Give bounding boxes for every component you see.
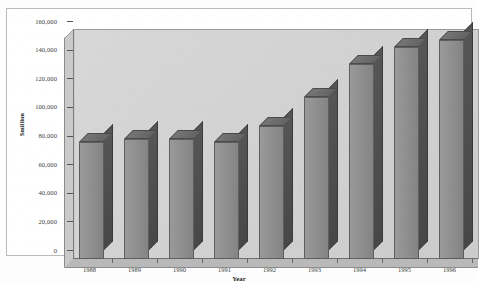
x-axis-tick-label: 1995 [385, 266, 425, 273]
x-axis-tick [292, 258, 293, 263]
x-axis-tick-label: 1996 [430, 266, 470, 273]
y-axis-tick-label: 160,000 [9, 18, 57, 25]
bar-front-face [124, 139, 149, 259]
bar-front-face [439, 40, 464, 259]
bar-front-face [169, 139, 194, 259]
y-axis-line [73, 29, 74, 259]
bar-front-face [304, 97, 329, 259]
bar-front-face [79, 142, 104, 259]
x-axis-tick-label: 1993 [295, 266, 335, 273]
figure-frame: $million 020,00040,00060,00080,000100,00… [6, 8, 472, 256]
bar-column [124, 130, 149, 259]
y-axis-tick [67, 50, 73, 51]
y-axis-tick-label: 20,000 [9, 218, 57, 225]
y-axis-tick [67, 250, 73, 251]
y-axis-tick [67, 136, 73, 137]
bar-side-face [194, 121, 203, 250]
y-axis-tick [67, 193, 73, 194]
bar-column [79, 133, 104, 259]
bar-front-face [259, 126, 284, 259]
bar-side-face [149, 121, 158, 250]
x-axis-tick-label: 1991 [205, 266, 245, 273]
y-axis-tick-label: 120,000 [9, 75, 57, 82]
x-axis-tick [202, 258, 203, 263]
y-axis-tick [67, 21, 73, 22]
y-axis-tick [67, 164, 73, 165]
y-axis-tick [67, 78, 73, 79]
bar-front-face [214, 142, 239, 259]
y-axis-tick-label: 80,000 [9, 132, 57, 139]
x-axis-tick-label: 1990 [160, 266, 200, 273]
y-axis-tick-label: 60,000 [9, 161, 57, 168]
y-axis-tick-label: 140,000 [9, 46, 57, 53]
x-axis-title: Year [7, 275, 471, 282]
chart-title-fragment [90, 0, 390, 4]
y-axis-tick [67, 107, 73, 108]
x-axis-tick [382, 258, 383, 263]
bar-side-face [104, 124, 113, 250]
x-axis-tick-label: 1988 [70, 266, 110, 273]
x-axis-tick [472, 258, 473, 263]
bar-front-face [394, 47, 419, 259]
x-axis-tick [337, 258, 338, 263]
bar-column [394, 38, 419, 259]
bar-column [349, 55, 374, 259]
y-axis-tick-label: 40,000 [9, 189, 57, 196]
bar-side-face [419, 29, 428, 250]
bar-front-face [349, 64, 374, 259]
bar-side-face [284, 108, 293, 250]
x-axis-tick [427, 258, 428, 263]
x-axis-tick-label: 1994 [340, 266, 380, 273]
x-axis-tick [247, 258, 248, 263]
y-axis-tick-label: 0 [9, 247, 57, 254]
x-axis-tick-label: 1992 [250, 266, 290, 273]
bar-side-face [329, 79, 338, 250]
bar-side-face [464, 22, 473, 250]
plot-left-wall-edge [64, 38, 65, 267]
x-axis-tick [112, 258, 113, 263]
bar-side-face [239, 124, 248, 250]
bar-column [304, 88, 329, 259]
bar-column [169, 130, 194, 259]
x-axis-tick [157, 258, 158, 263]
bar-side-face [374, 46, 383, 250]
bar-column [214, 133, 239, 259]
y-axis-tick [67, 221, 73, 222]
y-axis-tick-label: 100,000 [9, 103, 57, 110]
bar-column [439, 31, 464, 259]
bar-column [259, 117, 284, 259]
x-axis-tick-label: 1989 [115, 266, 155, 273]
